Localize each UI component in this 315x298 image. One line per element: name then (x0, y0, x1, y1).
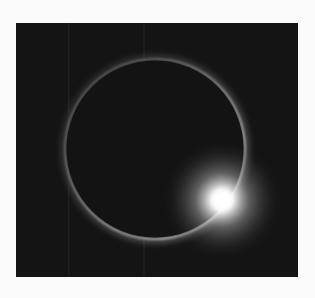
eclipse-illustration (16, 23, 298, 277)
flare-core (213, 191, 231, 209)
eclipse-photo: Black background with a thin glowing rin… (16, 23, 298, 277)
